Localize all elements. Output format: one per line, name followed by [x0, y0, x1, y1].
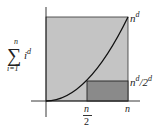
- label-mid-slash: /2: [140, 76, 149, 88]
- label-n-pow-d-base: n: [130, 12, 136, 24]
- label-n-pow-d-exp: d: [136, 10, 140, 19]
- sum-term-exponent: d: [27, 47, 31, 56]
- label-x-n: n: [125, 104, 130, 114]
- sum-symbol: ∑: [7, 45, 21, 65]
- diagram: n ∑ i=1 id nd nd/2d n 2 n: [0, 0, 167, 134]
- label-half-n-denominator: 2: [84, 117, 89, 127]
- lower-bound-rect: [87, 81, 128, 101]
- label-half-n-numerator: n: [84, 104, 89, 114]
- label-n-pow-d-over-2-pow-d: nd/2d: [130, 77, 152, 88]
- sum-lower-limit: i=1: [7, 65, 19, 73]
- label-mid-exp: d: [136, 74, 140, 83]
- label-mid-base: n: [130, 76, 136, 88]
- label-mid-exp2: d: [148, 74, 152, 83]
- sum-term: id: [24, 50, 31, 61]
- label-n-pow-d: nd: [130, 13, 140, 24]
